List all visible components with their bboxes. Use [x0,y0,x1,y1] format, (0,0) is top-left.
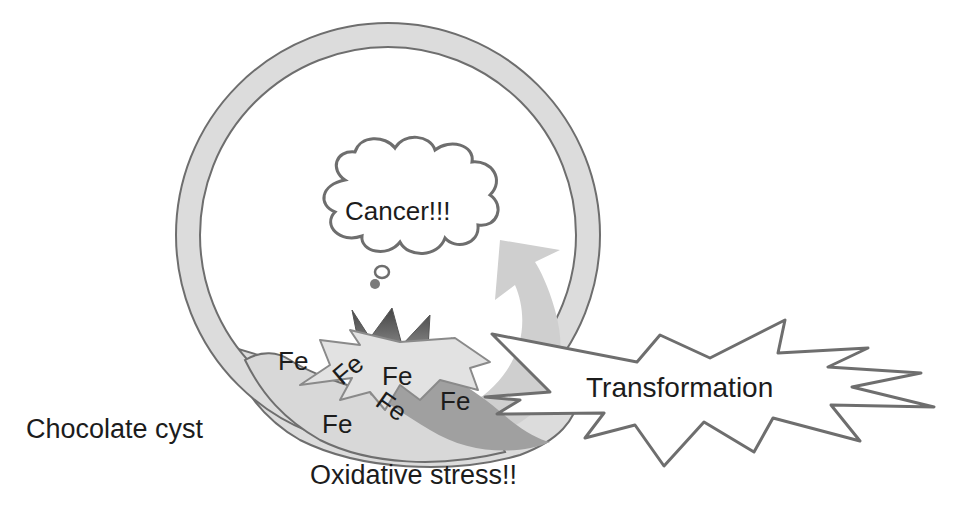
cancer-label: Cancer!!! [345,196,451,226]
fe-label: Fe [440,386,470,416]
chocolate-cyst-label: Chocolate cyst [26,414,204,444]
diagram-canvas: Cancer!!! Transformation Chocolate cyst … [0,0,957,512]
fe-label: Fe [322,409,352,439]
fe-label: Fe [278,346,308,376]
transformation-label: Transformation [586,372,773,403]
oxidative-stress-label: Oxidative stress!! [310,460,517,490]
